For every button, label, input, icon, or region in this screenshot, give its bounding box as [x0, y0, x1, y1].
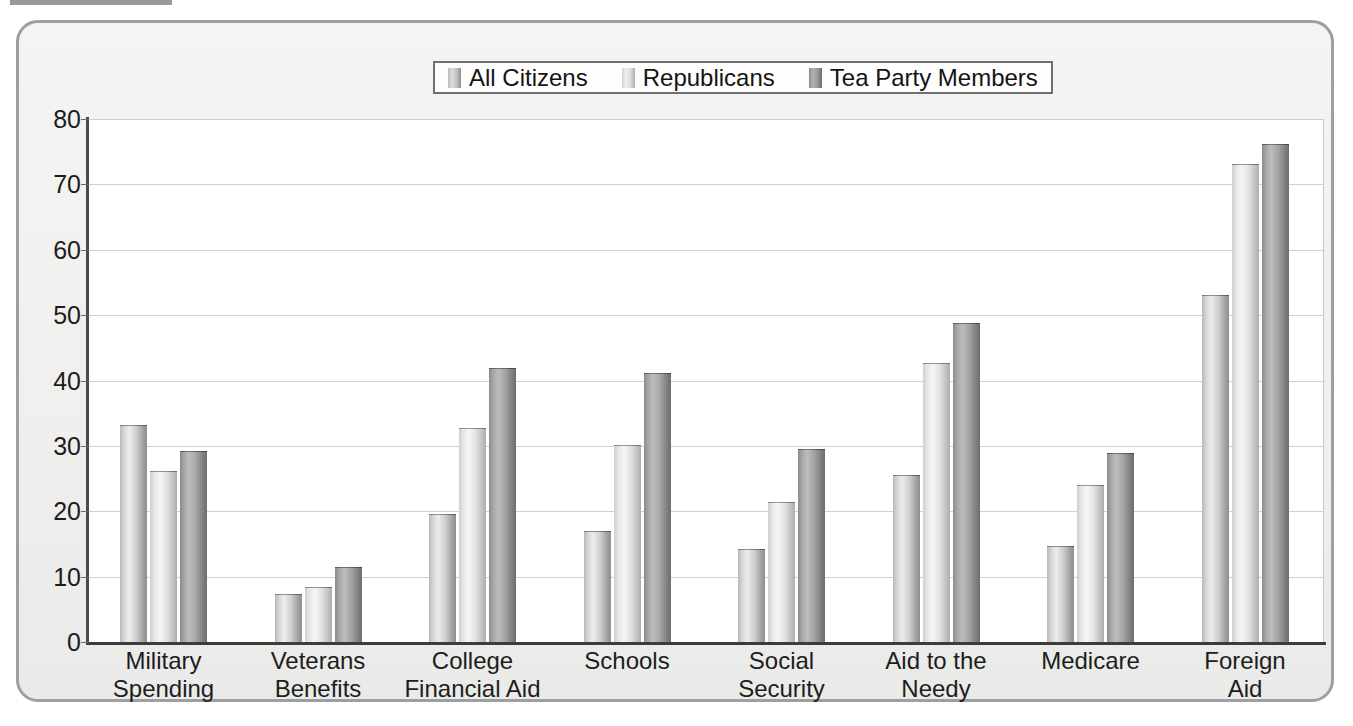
y-axis-tick-label: 10	[23, 564, 81, 589]
bar	[150, 471, 177, 642]
bar-series-layer	[88, 119, 1324, 642]
legend-swatch-icon	[622, 68, 635, 88]
bar	[459, 428, 486, 642]
bar	[1232, 164, 1259, 642]
bar	[275, 594, 302, 642]
y-axis-tick-label: 50	[23, 303, 81, 328]
bar-group	[120, 119, 207, 642]
bar	[429, 514, 456, 642]
legend-entry: Tea Party Members	[809, 64, 1038, 92]
bar	[953, 323, 980, 642]
legend-label: Republicans	[643, 64, 775, 92]
bar	[768, 502, 795, 642]
bar	[180, 451, 207, 642]
bar-group	[1202, 119, 1289, 642]
bar	[1047, 546, 1074, 642]
bar	[1202, 295, 1229, 642]
y-axis-tick-mark	[81, 642, 89, 643]
bar	[1107, 453, 1134, 642]
x-axis-line	[86, 642, 1326, 645]
bar-group	[738, 119, 825, 642]
bar	[923, 363, 950, 642]
x-axis-category-label-line: Needy	[826, 675, 1046, 703]
bar	[614, 445, 641, 642]
chart-legend: All CitizensRepublicansTea Party Members	[433, 61, 1053, 94]
bar	[738, 549, 765, 642]
y-axis-tick-label: 80	[23, 107, 81, 132]
bar	[335, 567, 362, 642]
y-axis-tick-label: 40	[23, 368, 81, 393]
y-axis-tick-label: 70	[23, 172, 81, 197]
bar	[584, 531, 611, 642]
y-axis-tick-labels: 01020304050607080	[19, 23, 81, 726]
page-corner-marker	[10, 0, 172, 5]
x-axis-category-label: ForeignAid	[1135, 647, 1353, 704]
bar-group	[1047, 119, 1134, 642]
bar	[893, 475, 920, 642]
bar	[1077, 485, 1104, 642]
bar-group	[893, 119, 980, 642]
y-axis-tick-label: 20	[23, 499, 81, 524]
y-axis-tick-label: 30	[23, 433, 81, 458]
x-axis-category-labels: MilitarySpendingVeteransBenefitsCollegeF…	[88, 647, 1324, 717]
bar	[120, 425, 147, 642]
legend-entry: Republicans	[622, 64, 775, 92]
x-axis-category-label-line: Foreign	[1135, 647, 1353, 675]
legend-swatch-icon	[809, 68, 822, 88]
legend-label: All Citizens	[469, 64, 588, 92]
y-axis-tick-label: 60	[23, 237, 81, 262]
bar	[644, 373, 671, 642]
chart-frame: 01020304050607080 MilitarySpendingVetera…	[16, 20, 1334, 702]
x-axis-category-label-line: Financial Aid	[363, 675, 583, 703]
legend-label: Tea Party Members	[830, 64, 1038, 92]
bar	[305, 587, 332, 642]
bar	[489, 368, 516, 642]
bar-group	[429, 119, 516, 642]
bar-group	[584, 119, 671, 642]
x-axis-category-label-line: Aid	[1135, 675, 1353, 703]
bar	[1262, 144, 1289, 642]
legend-entry: All Citizens	[448, 64, 588, 92]
legend-swatch-icon	[448, 68, 461, 88]
bar	[798, 449, 825, 642]
bar-group	[275, 119, 362, 642]
